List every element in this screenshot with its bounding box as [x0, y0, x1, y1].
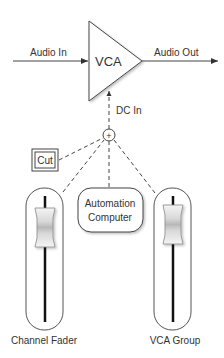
- vca-block: VCA: [89, 21, 142, 101]
- audio-in-signal: Audio In: [13, 47, 88, 61]
- vca-group-connection: [114, 140, 155, 193]
- vca-group-fader-cap[interactable]: [163, 205, 183, 244]
- automation-computer: Automation Computer: [78, 188, 143, 232]
- vca-diagram: Audio In VCA Audio Out DC In + Cut Chann…: [0, 0, 224, 358]
- automation-label-line1: Automation: [85, 198, 136, 209]
- dc-in-signal: DC In: [109, 91, 142, 129]
- cut-connection: [59, 138, 103, 160]
- channel-fader-label: Channel Fader: [11, 335, 78, 346]
- audio-out-signal: Audio Out: [142, 47, 218, 61]
- vca-group-fader[interactable]: VCA Group: [150, 188, 201, 346]
- channel-fader-connection: [63, 140, 104, 192]
- summing-symbol: +: [106, 131, 111, 141]
- audio-out-label: Audio Out: [154, 47, 199, 58]
- automation-computer-box: [78, 188, 143, 232]
- channel-fader[interactable]: Channel Fader: [11, 188, 78, 346]
- audio-in-label: Audio In: [30, 47, 67, 58]
- vca-group-label: VCA Group: [150, 335, 201, 346]
- summing-node: +: [103, 129, 115, 141]
- channel-fader-cap[interactable]: [35, 208, 55, 247]
- cut-label: Cut: [37, 155, 53, 166]
- vca-label: VCA: [95, 54, 122, 69]
- control-connections: [59, 138, 155, 193]
- dc-in-label: DC In: [116, 105, 142, 116]
- automation-label-line2: Computer: [88, 212, 133, 223]
- cut-button[interactable]: Cut: [32, 149, 58, 171]
